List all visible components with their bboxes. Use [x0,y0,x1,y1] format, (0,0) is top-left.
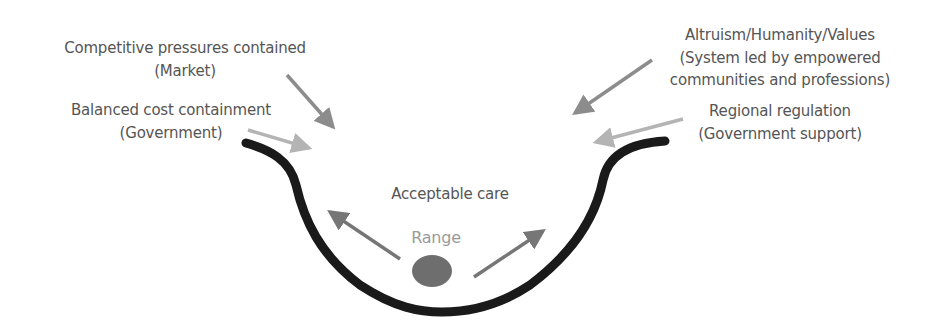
acceptable-care-label: Acceptable care [370,183,530,206]
range-right-arrow-icon [474,231,543,277]
range-ball [412,255,452,287]
acceptable-care-diagram: Competitive pressures contained (Market)… [0,0,940,331]
range-label: Range [396,227,476,250]
regional-force-label: Regional regulation (Government support) [664,100,896,145]
regional-force-subtitle: (Government support) [664,123,896,146]
altruism-force-subtitle-1: (System led by empowered [634,47,926,70]
government-force-subtitle: (Government) [40,122,302,145]
altruism-force-subtitle-2: communities and professions) [634,69,926,92]
market-force-title: Competitive pressures contained [28,37,342,60]
range-left-arrow-icon [330,212,400,259]
market-force-subtitle: (Market) [28,60,342,83]
market-force-label: Competitive pressures contained (Market) [28,37,342,82]
government-force-label: Balanced cost containment (Government) [40,99,302,144]
altruism-force-label: Altruism/Humanity/Values (System led by … [634,24,926,92]
altruism-force-title: Altruism/Humanity/Values [634,24,926,47]
government-force-title: Balanced cost containment [40,99,302,122]
regional-force-title: Regional regulation [664,100,896,123]
